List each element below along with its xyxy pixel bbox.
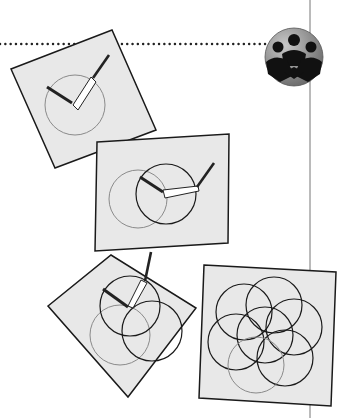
group-people-icon bbox=[265, 28, 323, 86]
panel-step-3 bbox=[48, 252, 196, 397]
panel-step-2 bbox=[95, 134, 229, 251]
panel-step-4 bbox=[199, 265, 336, 406]
illustration-canvas bbox=[0, 0, 353, 418]
